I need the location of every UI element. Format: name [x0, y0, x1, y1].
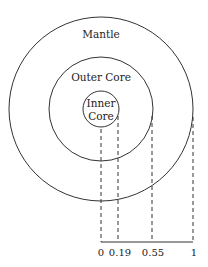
- earth-layers-diagram: Mantle Outer Core Inner Core 0 0.19 0.55…: [0, 0, 208, 267]
- tick-label-0: 0: [98, 247, 104, 258]
- tick-label-0-19: 0.19: [109, 247, 131, 258]
- tick-label-1: 1: [191, 247, 197, 258]
- inner-core-label-line1: Inner: [87, 97, 117, 109]
- tick-label-0-55: 0.55: [142, 247, 164, 258]
- inner-core-label-line2: Core: [88, 110, 114, 122]
- outer-core-label: Outer Core: [71, 71, 131, 83]
- mantle-label: Mantle: [82, 28, 120, 40]
